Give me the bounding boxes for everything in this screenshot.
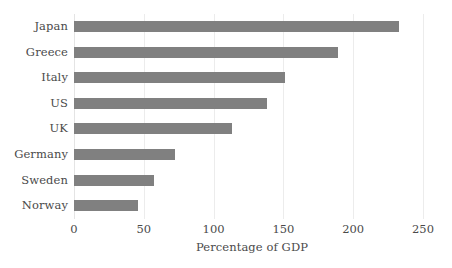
x-tick-250: 250 bbox=[412, 222, 434, 236]
plot-area bbox=[74, 14, 423, 219]
bar-japan bbox=[74, 21, 399, 32]
bar-greece bbox=[74, 47, 338, 58]
x-tick-50: 50 bbox=[136, 222, 151, 236]
bar-row bbox=[74, 193, 423, 219]
y-axis-label-sweden: Sweden bbox=[0, 168, 68, 194]
bar-row bbox=[74, 14, 423, 40]
x-tick-100: 100 bbox=[203, 222, 225, 236]
bar-germany bbox=[74, 149, 175, 160]
bar-uk bbox=[74, 123, 232, 134]
bar-sweden bbox=[74, 175, 154, 186]
x-axis-title: Percentage of GDP bbox=[0, 240, 452, 254]
bar-row bbox=[74, 40, 423, 66]
x-tick-0: 0 bbox=[70, 222, 77, 236]
bar-row bbox=[74, 65, 423, 91]
bar-norway bbox=[74, 200, 138, 211]
bar-italy bbox=[74, 72, 285, 83]
x-axis-title-text: Percentage of GDP bbox=[196, 240, 308, 254]
bar-us bbox=[74, 98, 267, 109]
y-axis-label-japan: Japan bbox=[0, 14, 68, 40]
y-axis-label-norway: Norway bbox=[0, 193, 68, 219]
bar-row bbox=[74, 91, 423, 117]
y-axis-label-us: US bbox=[0, 91, 68, 117]
y-axis-label-uk: UK bbox=[0, 116, 68, 142]
bar-row bbox=[74, 168, 423, 194]
bar-row bbox=[74, 116, 423, 142]
gridline-250 bbox=[423, 14, 424, 219]
y-axis-label-italy: Italy bbox=[0, 65, 68, 91]
bar-chart: JapanGreeceItalyUSUKGermanySwedenNorway … bbox=[0, 0, 452, 268]
y-axis-label-germany: Germany bbox=[0, 142, 68, 168]
x-axis-tick-labels: 050100150200250 bbox=[74, 222, 423, 238]
x-tick-150: 150 bbox=[272, 222, 294, 236]
bar-row bbox=[74, 142, 423, 168]
y-axis-label-greece: Greece bbox=[0, 40, 68, 66]
x-tick-200: 200 bbox=[342, 222, 364, 236]
y-axis-category-labels: JapanGreeceItalyUSUKGermanySwedenNorway bbox=[0, 14, 68, 219]
